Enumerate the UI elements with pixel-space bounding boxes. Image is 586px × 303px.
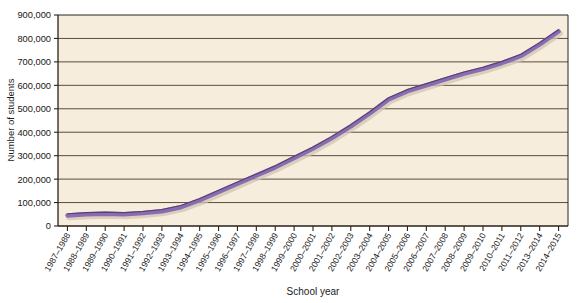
x-axis-title: School year xyxy=(287,286,340,297)
y-tick-label: 0 xyxy=(46,221,51,231)
y-tick-label: 600,000 xyxy=(17,81,51,91)
y-tick-label: 100,000 xyxy=(17,198,51,208)
y-tick-label: 400,000 xyxy=(17,128,51,138)
y-tick-label: 300,000 xyxy=(17,151,51,161)
chart-figure: 0100,000200,000300,000400,000500,000600,… xyxy=(0,0,586,303)
line-chart: 0100,000200,000300,000400,000500,000600,… xyxy=(0,0,586,303)
plot-area-background xyxy=(58,15,568,226)
y-axis-title: Number of students xyxy=(5,78,16,161)
y-tick-label: 700,000 xyxy=(17,57,51,67)
y-tick-label: 200,000 xyxy=(17,175,51,185)
y-tick-label: 800,000 xyxy=(17,34,51,44)
y-tick-label: 500,000 xyxy=(17,104,51,114)
y-tick-label: 900,000 xyxy=(17,10,51,20)
